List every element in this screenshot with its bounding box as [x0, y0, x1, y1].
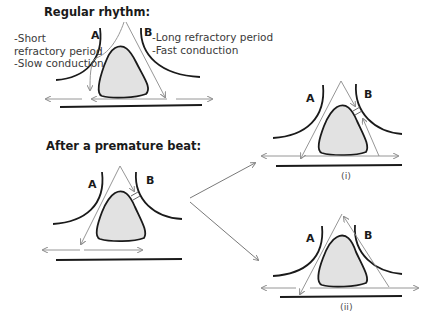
premature-beat-diagram — [43, 166, 182, 260]
block-mark — [355, 111, 362, 115]
premature-pathway-b-label: B — [146, 174, 154, 187]
branch-arrows — [190, 163, 258, 260]
block-mark — [131, 192, 138, 196]
block-mark — [133, 196, 140, 200]
distal-tissue-wall — [276, 165, 402, 166]
core-tissue — [318, 235, 367, 286]
pathway-b-wall — [136, 172, 182, 219]
outcome-ii-pathway-b-label: B — [364, 229, 372, 242]
arrow-to-outcome-i — [190, 163, 255, 198]
outcome-ii-diagram — [262, 214, 418, 297]
core-tissue — [319, 105, 368, 155]
outcome-i-pathway-b-label: B — [364, 88, 372, 101]
arrow-to-outcome-ii — [190, 202, 258, 260]
outcome-i-caption: (i) — [341, 170, 351, 181]
outcome-i-diagram — [262, 81, 402, 166]
regular-rhythm-heading: Regular rhythm: — [44, 5, 150, 19]
outcome-i-pathway-a-label: A — [306, 92, 315, 105]
pathway-b-wall — [356, 84, 402, 134]
distal-tissue-wall — [280, 296, 402, 297]
distal-tissue-wall — [56, 259, 182, 260]
outcome-ii-pathway-a-label: A — [306, 232, 315, 245]
conduction-path-b — [341, 81, 355, 106]
regular-pathway-a-label: A — [91, 29, 100, 42]
premature-pathway-a-label: A — [88, 178, 97, 191]
premature-beat-heading: After a premature beat: — [46, 139, 201, 153]
regular-pathway-b-label: B — [144, 26, 152, 39]
core-tissue — [99, 46, 148, 97]
conduction-path-b — [120, 166, 134, 191]
block-mark — [353, 107, 360, 111]
pathway-b-notes: -Long refractory period -Fast conduction — [152, 31, 273, 56]
distal-tissue-wall — [60, 105, 202, 107]
outcome-ii-caption: (ii) — [340, 301, 353, 312]
